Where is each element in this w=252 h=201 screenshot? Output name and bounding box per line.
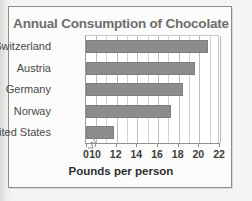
- x-axis-title: Pounds per person: [9, 165, 233, 177]
- category-label-united-states: United States: [0, 126, 51, 138]
- x-tick: [178, 143, 179, 147]
- axis-break-zigzag-icon: [87, 137, 103, 149]
- chart-figure-frame: Annual Consumption of Chocolate Switzerl…: [8, 6, 232, 188]
- bar-germany: [86, 83, 183, 96]
- bar-row: [86, 105, 220, 118]
- x-tick: [157, 143, 158, 147]
- bar-row: [86, 83, 220, 96]
- gridline: [220, 36, 221, 143]
- chart-screenshot: Annual Consumption of Chocolate Switzerl…: [0, 0, 252, 201]
- category-label-germany: Germany: [0, 83, 51, 95]
- bar-austria: [86, 62, 195, 75]
- bar-series: [86, 36, 218, 143]
- x-tick: [136, 143, 137, 147]
- bar-switzerland: [86, 40, 208, 53]
- bar-row: [86, 40, 220, 53]
- category-label-norway: Norway: [0, 105, 51, 117]
- x-tick-label: 22: [207, 148, 231, 160]
- bar-norway: [86, 105, 171, 118]
- bar-row: [86, 62, 220, 75]
- plot-area: [85, 35, 219, 143]
- x-tick: [116, 143, 117, 147]
- chart-title: Annual Consumption of Chocolate: [9, 16, 233, 31]
- x-tick: [219, 143, 220, 147]
- bar-row: [86, 126, 220, 139]
- category-label-switzerland: Switzerland: [0, 40, 51, 52]
- category-label-austria: Austria: [0, 62, 51, 74]
- x-tick: [198, 143, 199, 147]
